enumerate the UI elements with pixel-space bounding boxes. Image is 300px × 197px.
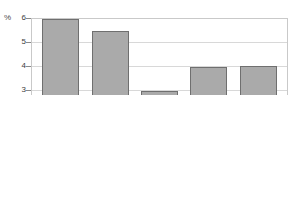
bar-chart: % 6 5 4 3 2 1 0 2006 2007 2008	[0, 0, 300, 95]
bar-2008[interactable]	[141, 91, 178, 96]
bar-2010[interactable]	[240, 66, 277, 95]
y-axis-label-6: 6	[0, 14, 26, 22]
bar-2006[interactable]	[42, 19, 79, 95]
bar-2007[interactable]	[92, 31, 129, 95]
y-axis-label-3: 3	[0, 86, 26, 94]
y-axis-label-4: 4	[0, 62, 26, 70]
y-axis-label-5: 5	[0, 38, 26, 46]
bars-container	[32, 19, 287, 95]
bar-2009[interactable]	[190, 67, 227, 96]
plot-area	[31, 18, 288, 95]
